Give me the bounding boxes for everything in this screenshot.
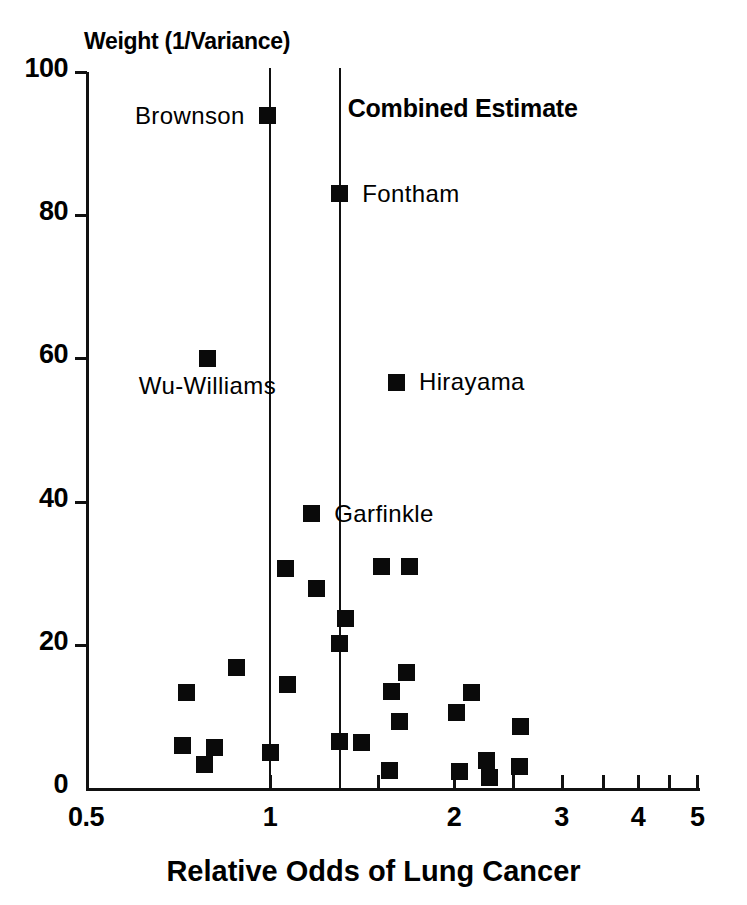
- x-minor-tick: [602, 775, 605, 789]
- data-point: [303, 505, 320, 522]
- combined-estimate-line: [339, 68, 341, 788]
- x-tick-4: [637, 775, 640, 789]
- data-point: [478, 752, 495, 769]
- y-tick-label-60: 60: [0, 339, 68, 370]
- data-point: [331, 635, 348, 652]
- data-point: [512, 718, 529, 735]
- y-tick-label-100: 100: [0, 53, 68, 84]
- x-axis-title: Relative Odds of Lung Cancer: [0, 855, 747, 888]
- point-label-hirayama: Hirayama: [419, 368, 525, 396]
- data-point: [337, 610, 354, 627]
- funnel-plot-figure: Weight (1/Variance) Relative Odds of Lun…: [0, 0, 747, 905]
- x-tick-label-5: 5: [652, 802, 742, 833]
- data-point: [178, 684, 195, 701]
- x-axis-line: [86, 788, 700, 791]
- data-point: [448, 704, 465, 721]
- y-tick-label-80: 80: [0, 196, 68, 227]
- y-axis-title: Weight (1/Variance): [84, 28, 290, 55]
- x-tick-label-2: 2: [409, 802, 499, 833]
- null-line: [269, 68, 271, 788]
- annotation-combined-estimate: Combined Estimate: [348, 94, 578, 123]
- point-label-garfinkle: Garfinkle: [334, 500, 434, 528]
- y-tick-100: [75, 71, 87, 74]
- data-point: [388, 374, 405, 391]
- x-minor-tick: [377, 775, 380, 789]
- point-label-wu-williams: Wu-Williams: [107, 372, 307, 400]
- data-point: [331, 733, 348, 750]
- data-point: [383, 683, 400, 700]
- point-label-brownson: Brownson: [0, 102, 245, 130]
- y-tick-60: [75, 357, 87, 360]
- data-point: [199, 350, 216, 367]
- data-point: [206, 739, 223, 756]
- data-point: [463, 684, 480, 701]
- data-point: [279, 676, 296, 693]
- y-tick-20: [75, 644, 87, 647]
- x-tick-5: [696, 775, 699, 789]
- y-tick-label-40: 40: [0, 483, 68, 514]
- data-point: [373, 558, 390, 575]
- y-tick-label-0: 0: [0, 769, 68, 800]
- y-tick-80: [75, 214, 87, 217]
- data-point: [451, 763, 468, 780]
- x-tick-label-1: 1: [225, 802, 315, 833]
- data-point: [481, 769, 498, 786]
- data-point: [381, 762, 398, 779]
- data-point: [331, 185, 348, 202]
- data-point: [353, 734, 370, 751]
- data-point: [228, 659, 245, 676]
- data-point: [398, 664, 415, 681]
- y-tick-40: [75, 501, 87, 504]
- data-point: [401, 558, 418, 575]
- data-point: [259, 107, 276, 124]
- y-axis-line: [86, 72, 89, 791]
- x-tick-label-0.5: 0.5: [41, 802, 131, 833]
- data-point: [196, 756, 213, 773]
- data-point: [262, 744, 279, 761]
- x-minor-tick: [512, 775, 515, 789]
- data-point: [174, 737, 191, 754]
- x-tick-3: [561, 775, 564, 789]
- x-minor-tick: [668, 775, 671, 789]
- data-point: [391, 713, 408, 730]
- data-point: [511, 758, 528, 775]
- point-label-fontham: Fontham: [362, 180, 460, 208]
- y-tick-label-20: 20: [0, 626, 68, 657]
- plot-area: Weight (1/Variance) Relative Odds of Lun…: [0, 0, 747, 905]
- data-point: [277, 560, 294, 577]
- data-point: [308, 580, 325, 597]
